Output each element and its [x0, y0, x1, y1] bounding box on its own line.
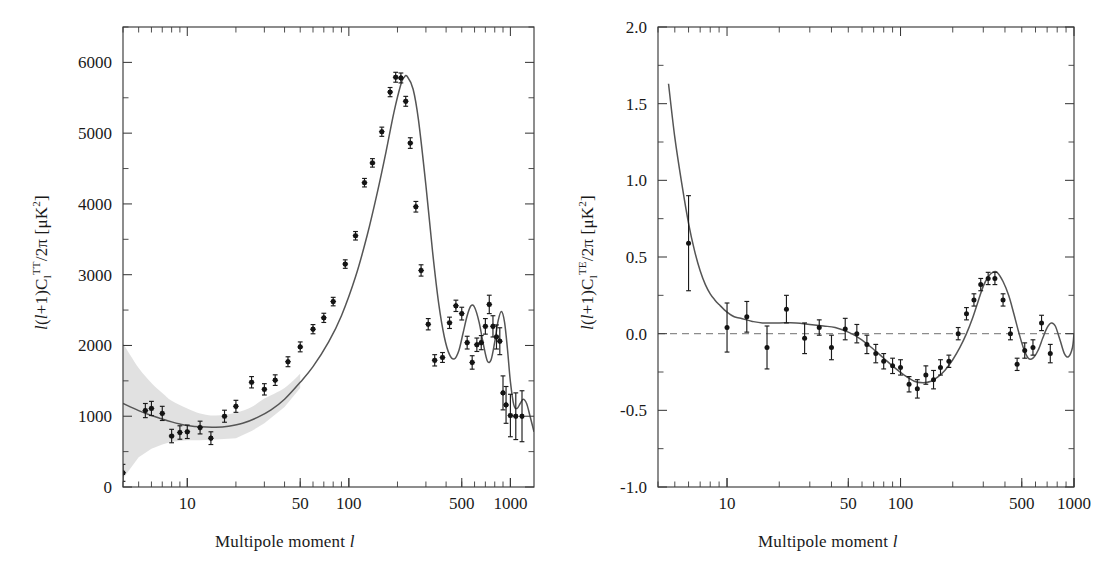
y-tick-label: 1.0	[626, 171, 647, 190]
data-point	[992, 276, 997, 281]
data-point	[209, 436, 213, 440]
data-point	[234, 404, 238, 408]
data-point	[986, 276, 991, 281]
x-tick-label: 500	[1009, 494, 1035, 513]
data-point	[362, 181, 366, 185]
data-point	[298, 345, 302, 349]
data-point	[978, 282, 983, 287]
data-point	[854, 331, 859, 336]
data-point	[483, 324, 487, 328]
data-point	[447, 321, 451, 325]
data-point	[938, 365, 943, 370]
data-point	[380, 130, 384, 134]
data-point	[475, 343, 479, 347]
x-label-symbol: l	[893, 532, 898, 551]
data-point	[249, 380, 253, 384]
x-tick-label: 10	[719, 494, 736, 513]
data-point	[143, 408, 147, 412]
data-point	[898, 365, 903, 370]
tt-x-axis-label: Multipole moment l	[215, 532, 355, 552]
panel-tt-spectrum: 105010050010000100020003000400050006000 …	[0, 0, 548, 574]
data-point	[971, 297, 976, 302]
data-point	[964, 311, 969, 316]
data-point	[178, 430, 182, 434]
cmb-power-spectrum-figure: 105010050010000100020003000400050006000 …	[0, 0, 1096, 574]
data-point	[487, 302, 491, 306]
te-y-axis-label: l(l+1)ClTE/2π [μK2]	[576, 195, 599, 330]
y-tick-label: 1000	[78, 407, 112, 426]
x-label-text: Multipole moment	[758, 532, 893, 551]
data-point	[864, 342, 869, 347]
data-point	[479, 341, 483, 345]
y-tick-label: 6000	[78, 53, 112, 72]
data-point	[311, 327, 315, 331]
data-point	[454, 304, 458, 308]
data-point	[931, 377, 936, 382]
data-point	[520, 414, 524, 418]
data-point	[946, 359, 951, 364]
data-point	[440, 355, 444, 359]
data-point	[494, 335, 498, 339]
data-point	[956, 331, 961, 336]
panel-te-spectrum: 10501005001000-1.0-0.50.00.51.01.52.0 l(…	[548, 0, 1096, 574]
data-point	[414, 205, 418, 209]
data-point	[170, 434, 174, 438]
data-point	[829, 345, 834, 350]
data-point	[504, 403, 508, 407]
data-point	[915, 386, 920, 391]
data-point	[1030, 345, 1035, 350]
data-point	[470, 360, 474, 364]
plot-inner	[658, 84, 1074, 398]
data-point	[1001, 297, 1006, 302]
data-point	[508, 413, 512, 417]
data-point	[185, 430, 189, 434]
y-tick-label: 0.0	[626, 325, 647, 344]
data-point	[331, 299, 335, 303]
data-point	[465, 341, 469, 345]
y-tick-label: 1.5	[626, 95, 647, 114]
data-point	[273, 378, 277, 382]
data-point	[353, 234, 357, 238]
y-tick-label: 2000	[78, 336, 112, 355]
data-point	[388, 90, 392, 94]
te-plot-canvas: 10501005001000-1.0-0.50.00.51.01.52.0	[548, 0, 1096, 574]
x-tick-label: 1000	[1057, 494, 1091, 513]
data-point	[725, 325, 730, 330]
data-point	[765, 345, 770, 350]
plot-inner	[120, 72, 534, 481]
data-point	[873, 351, 878, 356]
plot-group: 10501005001000-1.0-0.50.00.51.01.52.0	[620, 18, 1091, 513]
data-point	[923, 373, 928, 378]
y-tick-label: -1.0	[620, 478, 647, 497]
x-tick-label: 50	[840, 494, 857, 513]
data-point	[744, 314, 749, 319]
data-point	[198, 425, 202, 429]
plot-frame	[658, 27, 1074, 487]
y-tick-label: 0	[104, 478, 113, 497]
data-point	[1008, 331, 1013, 336]
x-tick-label: 1000	[493, 494, 527, 513]
x-tick-label: 100	[888, 494, 914, 513]
x-tick-label: 50	[292, 494, 309, 513]
data-point	[1022, 348, 1027, 353]
data-point	[286, 360, 290, 364]
x-label-symbol: l	[350, 532, 355, 551]
data-point	[426, 322, 430, 326]
x-tick-label: 10	[179, 494, 196, 513]
data-point	[498, 339, 502, 343]
tt-y-axis-label: l(l+1)ClTT/2π [μK2]	[30, 195, 53, 330]
data-point	[881, 359, 886, 364]
data-point	[399, 76, 403, 80]
model-curve	[669, 84, 1074, 383]
data-point	[343, 262, 347, 266]
y-tick-label: 4000	[78, 195, 112, 214]
data-point	[433, 358, 437, 362]
data-point	[501, 391, 505, 395]
data-point	[262, 387, 266, 391]
te-x-axis-label: Multipole moment l	[758, 532, 898, 552]
data-point	[1039, 320, 1044, 325]
data-point	[322, 316, 326, 320]
x-tick-label: 100	[336, 494, 362, 513]
data-point	[1015, 362, 1020, 367]
data-point	[1048, 351, 1053, 356]
